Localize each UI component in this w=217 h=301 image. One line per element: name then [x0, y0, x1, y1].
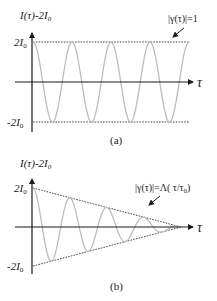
panel-b-interference-curve — [33, 188, 181, 261]
panel-b-lower-level-label: -2I0 — [7, 260, 24, 274]
panel-b: I(τ)-2I0 τ 2I0 -2I0 |γ(τ)|=Λ( τ/τ0) (b) — [7, 157, 203, 293]
panel-a-upper-level-label: 2I0 — [14, 36, 27, 50]
panel-a: I(τ)-2I0 τ 2I0 -2I0 |γ(τ)|=1 (a) — [7, 9, 203, 147]
panel-a-caption: (a) — [110, 134, 123, 147]
panel-b-lower-envelope — [33, 227, 181, 266]
panel-a-y-axis-label: I(τ)-2I0 — [19, 9, 52, 23]
panel-b-caption: (b) — [110, 280, 123, 293]
panel-b-x-axis-label: τ — [197, 220, 203, 235]
panel-b-upper-level-label: 2I0 — [14, 182, 27, 196]
panel-b-y-axis-label: I(τ)-2I0 — [19, 157, 52, 171]
panel-a-annotation-arrow-icon — [173, 28, 184, 37]
panel-a-lower-level-label: -2I0 — [7, 116, 24, 130]
panel-a-coherence-annotation: |γ(τ)|=1 — [168, 13, 198, 25]
panel-b-coherence-annotation: |γ(τ)|=Λ( τ/τ0) — [135, 182, 190, 194]
panel-a-x-axis-label: τ — [197, 75, 203, 90]
coherence-diagram: I(τ)-2I0 τ 2I0 -2I0 |γ(τ)|=1 (a) I(τ)-2I… — [0, 0, 217, 301]
panel-b-annotation-arrow-icon — [149, 196, 160, 205]
